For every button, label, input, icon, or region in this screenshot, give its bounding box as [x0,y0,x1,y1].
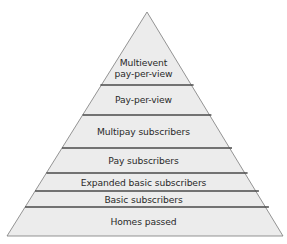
level-multipay-subscribers: Multipay subscribers [0,126,287,137]
level-multievent-ppv-line2: pay-per-view [0,68,287,79]
level-homes-passed: Homes passed [0,216,287,227]
level-pay-per-view: Pay-per-view [0,94,287,105]
level-pay-subscribers: Pay subscribers [0,155,287,166]
level-basic-subscribers: Basic subscribers [0,194,287,205]
pyramid-graphic [0,0,287,244]
level-multievent-ppv-line1: Multievent [0,57,287,68]
level-expanded-basic-subscribers: Expanded basic subscribers [0,177,287,188]
